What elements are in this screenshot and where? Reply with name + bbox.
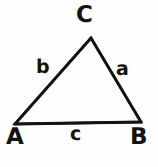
- side-label-a: a: [116, 60, 128, 79]
- triangle-diagram: C A B a b c: [0, 0, 158, 167]
- vertex-label-b: B: [130, 126, 147, 149]
- triangle-side-b-segment: [15, 38, 91, 124]
- vertex-label-a: A: [6, 126, 23, 149]
- side-label-c: c: [70, 125, 81, 144]
- triangle-side-a-segment: [91, 38, 141, 122]
- vertex-label-c: C: [76, 4, 92, 27]
- side-label-b: b: [36, 58, 49, 77]
